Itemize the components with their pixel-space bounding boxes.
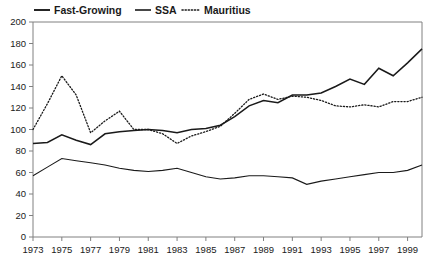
y-tick-label: 40: [15, 188, 26, 199]
x-tick-label: 1991: [282, 244, 303, 255]
x-tick-label: 1987: [224, 244, 245, 255]
y-tick-label: 100: [10, 124, 26, 135]
x-tick-label: 1977: [80, 244, 101, 255]
legend-label-mauritius: Mauritius: [204, 4, 251, 16]
plot-frame: [33, 22, 422, 237]
x-tick-label: 1997: [368, 244, 389, 255]
y-tick-label: 80: [15, 145, 26, 156]
x-tick-label: 1989: [253, 244, 274, 255]
x-tick-label: 1993: [311, 244, 332, 255]
series-line-fast-growing: [33, 49, 422, 145]
x-tick-label: 1985: [195, 244, 216, 255]
y-tick-label: 160: [10, 59, 26, 70]
chart-figure: Fast-Growing SSA Mauritius 0204060801001…: [0, 0, 431, 264]
y-tick-label: 20: [15, 210, 26, 221]
x-tick-label: 1981: [138, 244, 159, 255]
series-line-ssa: [33, 159, 422, 185]
y-axis: 020406080100120140160180200: [10, 16, 33, 242]
data-series-group: [33, 49, 422, 184]
y-tick-label: 140: [10, 81, 26, 92]
y-tick-label: 200: [10, 16, 26, 27]
x-tick-label: 1979: [109, 244, 130, 255]
y-tick-label: 120: [10, 102, 26, 113]
x-axis: 1973197519771979198119831985198719891991…: [22, 237, 418, 255]
y-tick-label: 180: [10, 38, 26, 49]
legend-label-fast-growing: Fast-Growing: [54, 4, 122, 16]
x-tick-label: 1973: [22, 244, 43, 255]
line-chart: Fast-Growing SSA Mauritius 0204060801001…: [0, 0, 431, 264]
legend-label-ssa: SSA: [155, 4, 177, 16]
chart-legend: Fast-Growing SSA Mauritius: [34, 4, 251, 16]
x-tick-label: 1975: [51, 244, 72, 255]
x-tick-label: 1995: [339, 244, 360, 255]
y-tick-label: 60: [15, 167, 26, 178]
x-tick-label: 1999: [397, 244, 418, 255]
x-tick-label: 1983: [167, 244, 188, 255]
series-line-mauritius: [33, 76, 422, 144]
y-tick-label: 0: [21, 231, 26, 242]
axis-box: [33, 22, 422, 237]
